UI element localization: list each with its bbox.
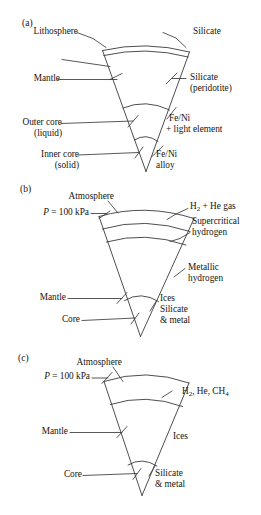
- label-metallic-line1: Metallic: [188, 262, 219, 273]
- label-core-comp-b-line1: Ices: [160, 293, 175, 304]
- leader-h2heCH4-c: [162, 391, 172, 398]
- leader-lithosphere: [77, 33, 106, 48]
- label-supercritical-line1: Supercritical: [192, 216, 240, 227]
- leader-inner-core: [78, 153, 139, 156]
- label-inner-core-line2: (solid): [0, 160, 79, 171]
- label-mantle-c: Mantle: [10, 426, 68, 437]
- planetary-interiors-figure: (a) Lithosphere Mantle Outer core (liqui…: [0, 0, 261, 515]
- label-outer-core-line1: Outer core: [0, 117, 62, 128]
- leader-core-b: [82, 318, 135, 321]
- leader-silicate: [62, 60, 110, 67]
- panel-a-lithosphere-base-arc: [104, 51, 188, 57]
- label-ices-c: Ices: [173, 431, 188, 442]
- panel-b-mantle-core-arc: [125, 296, 159, 302]
- label-silicate-peridotite-line2: (peridotite): [190, 83, 232, 94]
- label-silicate-peridotite-line1: Silicate: [190, 72, 218, 83]
- label-core-comp-b-line3: & metal: [160, 315, 190, 326]
- label-mantle-b: Mantle: [8, 292, 66, 303]
- label-core-c: Core: [40, 469, 82, 480]
- h2-prefix-c: H: [182, 386, 189, 396]
- label-pressure-c: P = 100 kPa: [26, 371, 90, 382]
- label-feni-light-line1: Fe/Ni: [169, 113, 190, 124]
- panel-a-mantle-core-arc: [123, 104, 170, 110]
- h2-suffix-b: + He gas: [200, 201, 235, 211]
- leader-metallic-b: [174, 269, 185, 278]
- label-inner-core-line1: Inner core: [0, 149, 79, 160]
- label-feni-light-line2: + light element: [166, 124, 222, 135]
- leader-silicate-right: [163, 33, 186, 48]
- panel-a-inner-core-arc: [135, 137, 159, 142]
- panel-b-surface-arc: [99, 210, 194, 218]
- label-core-comp-b-line2: Silicate: [160, 304, 188, 315]
- h2-prefix-b: H: [190, 201, 197, 211]
- label-core-comp-c-line1: Silicate: [155, 468, 183, 479]
- pressure-value-b: = 100 kPa: [49, 207, 89, 217]
- ch4-sub-c: 4: [225, 390, 229, 398]
- leader-core-c: [83, 474, 137, 476]
- label-supercritical-line2: hydrogen: [192, 227, 227, 238]
- label-h2-he-gas: H2 + He gas: [190, 201, 236, 215]
- panel-a-leaders: [58, 33, 186, 159]
- label-outer-core-line2: (liquid): [0, 128, 62, 139]
- label-mantle-a: Mantle: [0, 73, 60, 84]
- panel-tag-c: (c): [18, 353, 29, 363]
- label-silicate-a: Silicate: [193, 26, 221, 37]
- label-pressure-b: P = 100 kPa: [24, 207, 89, 218]
- leader-outer-core: [61, 121, 133, 124]
- label-lithosphere: Lithosphere: [0, 26, 78, 37]
- label-metallic-line2: hydrogen: [188, 273, 223, 284]
- label-atmosphere-c: Atmosphere: [58, 357, 122, 368]
- panel-c-left-edge: [104, 382, 142, 496]
- leader-mantle-b-tick: [117, 293, 127, 304]
- leader-atmosphere-c: [113, 367, 123, 382]
- panel-tag-b: (b): [20, 184, 31, 194]
- label-core-comp-c-line2: & metal: [155, 479, 185, 490]
- pressure-value-c: = 100 kPa: [50, 371, 90, 381]
- panel-b-atmosphere-base-arc: [103, 223, 191, 231]
- label-core-b: Core: [38, 314, 80, 325]
- label-feni-alloy-line1: Fe/Ni: [156, 149, 177, 160]
- h2-mid-c: , He, CH: [192, 386, 225, 396]
- panel-b-supercritical-base-arc: [107, 237, 187, 245]
- panel-c-atmosphere-base-arc: [111, 399, 183, 406]
- label-atmosphere-b: Atmosphere: [52, 191, 114, 202]
- leader-supercritical-b: [170, 233, 190, 242]
- panel-c-leaders: [70, 367, 172, 480]
- label-h2-he-ch4: H2, He, CH4: [182, 386, 229, 400]
- label-feni-alloy-line2: alloy: [156, 160, 175, 171]
- leader-pressure-b-tick: [99, 211, 110, 219]
- panel-c-surface-arc: [104, 375, 189, 383]
